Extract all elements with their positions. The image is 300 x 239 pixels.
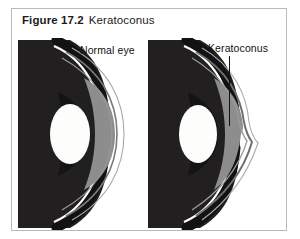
figure-number: Figure 17.2 <box>22 14 84 26</box>
figure-caption: Figure 17.2Keratoconus <box>22 14 155 26</box>
lens <box>50 104 90 164</box>
keratoconus-eye-svg <box>148 38 268 230</box>
figure-title: Keratoconus <box>89 14 155 26</box>
normal-eye-label: Normal eye <box>80 44 135 56</box>
figure-container: Figure 17.2Keratoconus <box>0 0 300 239</box>
normal-eye-illustration <box>18 38 128 230</box>
normal-eye-svg <box>18 38 128 230</box>
keratoconus-eye-illustration <box>148 38 268 230</box>
keratoconus-label: Keratoconus <box>208 42 268 54</box>
keratoconus-leader-line <box>229 56 230 126</box>
lens <box>179 105 217 163</box>
